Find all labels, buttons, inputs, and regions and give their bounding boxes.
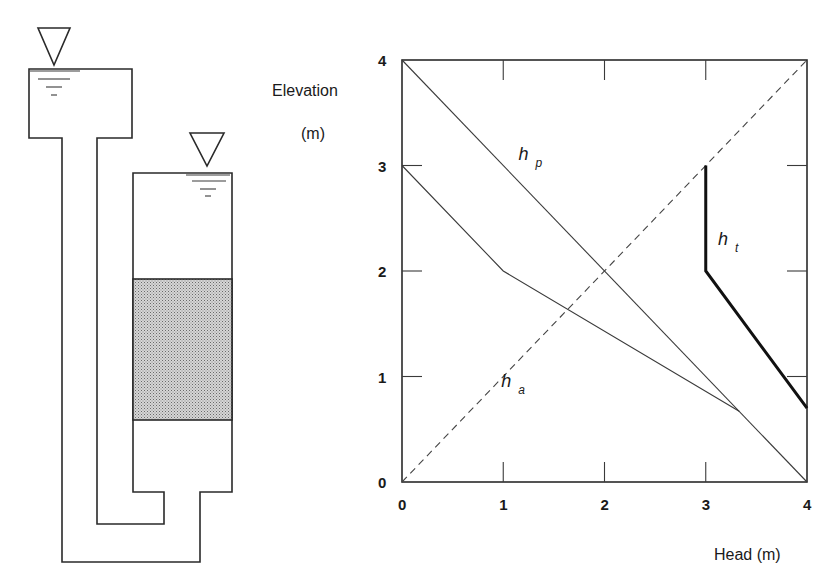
label-subscript: a (518, 383, 525, 397)
chart-series (402, 60, 807, 482)
x-tick-label: 3 (702, 496, 710, 513)
permeameter-apparatus (29, 28, 232, 562)
series-h-t (706, 166, 807, 409)
x-tick-label: 2 (601, 496, 609, 513)
head-elevation-chart: 0123401234 hphaht Elevation (m) Head (m) (272, 52, 812, 563)
label-subscript: t (735, 241, 739, 255)
upper-water-surface-lines (30, 71, 80, 95)
x-tick-label: 1 (499, 496, 507, 513)
y-axis-title: Elevation (272, 82, 338, 99)
upper-water-level-icon (38, 28, 70, 65)
lower-water-surface-lines (186, 175, 230, 196)
lower-water-level-icon (190, 133, 224, 166)
series-unlabeled (402, 166, 739, 412)
x-axis-title: Head (m) (714, 546, 781, 563)
label-h-a: h (501, 371, 511, 391)
soil-sample (133, 279, 232, 420)
y-tick-label: 4 (378, 52, 387, 69)
label-subscript: p (534, 156, 542, 170)
x-tick-label: 4 (803, 496, 812, 513)
chart-series-labels: hphaht (501, 144, 739, 397)
x-tick-label: 0 (398, 496, 406, 513)
y-tick-label: 1 (378, 369, 386, 386)
y-axis-unit: (m) (301, 125, 325, 142)
y-tick-label: 3 (378, 158, 386, 175)
label-h-p: h (518, 144, 528, 164)
label-h-t: h (718, 229, 728, 249)
y-tick-label: 2 (378, 263, 386, 280)
diagram-canvas: 0123401234 hphaht Elevation (m) Head (m) (0, 0, 833, 588)
y-tick-label: 0 (378, 474, 386, 491)
axis-tick-labels: 0123401234 (378, 52, 812, 513)
